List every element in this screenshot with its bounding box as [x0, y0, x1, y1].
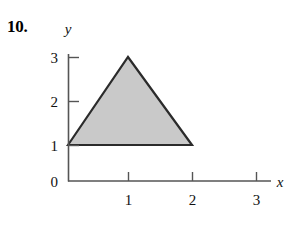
- y-tick-label-0: 0: [51, 174, 59, 190]
- x-axis-label: x: [276, 174, 284, 190]
- y-tick-label-3: 3: [51, 50, 59, 66]
- figure-container: 10. 3 2 1 0 1 2 3 y x: [0, 0, 290, 229]
- x-tick-label-3: 3: [253, 192, 261, 208]
- y-tick-label-2: 2: [51, 94, 59, 110]
- y-tick-label-1: 1: [51, 138, 59, 154]
- coordinate-plot: 3 2 1 0 1 2 3 y x: [0, 0, 290, 229]
- y-axis-label: y: [63, 21, 72, 37]
- shaded-triangle-region: [68, 57, 192, 145]
- x-tick-label-2: 2: [189, 192, 197, 208]
- x-tick-label-1: 1: [125, 192, 133, 208]
